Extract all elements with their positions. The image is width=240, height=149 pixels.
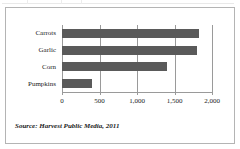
category-label-garlic: Garlic	[39, 45, 57, 55]
x-axis: 05001,0001,5002,000	[62, 92, 212, 108]
x-tick-label: 1,000	[129, 97, 145, 105]
x-tick-mark	[212, 92, 213, 95]
bar-corn	[62, 62, 167, 71]
x-tick-mark	[62, 92, 63, 95]
bar-pumpkins	[62, 79, 92, 88]
gridline	[212, 25, 213, 92]
x-tick-label: 0	[60, 97, 64, 105]
plot-area: CarrotsGarlicCornPumpkins	[62, 25, 212, 92]
x-tick-mark	[137, 92, 138, 95]
bar-garlic	[62, 46, 197, 55]
x-tick-label: 500	[94, 97, 105, 105]
x-tick-label: 2,000	[204, 97, 220, 105]
category-label-pumpkins: Pumpkins	[28, 79, 56, 89]
bar-row: Corn	[62, 59, 212, 76]
fragment-cell	[62, 0, 82, 4]
x-tick-mark	[100, 92, 101, 95]
fragment-cell	[28, 0, 62, 4]
bar-row: Garlic	[62, 42, 212, 59]
source-note: Source: Harvest Public Media, 2011	[15, 122, 119, 130]
category-label-corn: Corn	[42, 62, 56, 72]
category-label-carrots: Carrots	[35, 28, 56, 38]
figure-container: CarrotsGarlicCornPumpkins 05001,0001,500…	[5, 7, 235, 144]
fragment-cell	[2, 0, 28, 4]
x-tick-mark	[175, 92, 176, 95]
bar-row: Carrots	[62, 25, 212, 42]
bar-carrots	[62, 29, 199, 38]
x-tick-label: 1,500	[167, 97, 183, 105]
cut-off-table-fragment	[2, 0, 234, 4]
bar-row: Pumpkins	[62, 75, 212, 92]
